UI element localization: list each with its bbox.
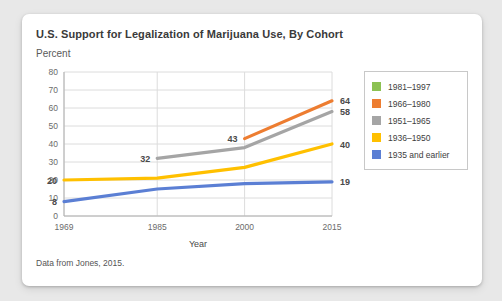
svg-text:64: 64 xyxy=(340,96,350,106)
svg-text:20: 20 xyxy=(47,176,57,186)
legend-swatch-icon xyxy=(372,99,381,108)
legend-item-1951-1965[interactable]: 1951–1965 xyxy=(372,112,461,129)
svg-text:1969: 1969 xyxy=(55,222,74,232)
legend-item-1935-and-earlier[interactable]: 1935 and earlier xyxy=(372,146,461,163)
legend-item-label: 1951–1965 xyxy=(388,116,431,126)
page-title: U.S. Support for Legalization of Marijua… xyxy=(36,28,343,40)
page-background: U.S. Support for Legalization of Marijua… xyxy=(0,0,502,301)
y-axis-unit-label: Percent xyxy=(36,48,70,59)
svg-text:40: 40 xyxy=(49,139,59,149)
svg-text:19: 19 xyxy=(340,177,350,187)
legend-item-label: 1935 and earlier xyxy=(388,150,449,160)
source-note: Data from Jones, 2015. xyxy=(36,258,124,268)
svg-text:2000: 2000 xyxy=(235,222,254,232)
svg-text:30: 30 xyxy=(49,157,59,167)
line-chart: 0102030405060708019691985200020154364325… xyxy=(32,66,372,251)
legend-item-1981-1997[interactable]: 1981–1997 xyxy=(372,78,461,95)
svg-text:2015: 2015 xyxy=(323,222,342,232)
svg-text:32: 32 xyxy=(140,154,150,164)
svg-text:0: 0 xyxy=(53,211,58,221)
legend-item-label: 1936–1950 xyxy=(388,133,431,143)
legend-item-label: 1981–1997 xyxy=(388,82,431,92)
legend-swatch-icon xyxy=(372,133,381,142)
chart-card: U.S. Support for Legalization of Marijua… xyxy=(22,14,482,286)
svg-text:1985: 1985 xyxy=(148,222,167,232)
legend-item-1936-1950[interactable]: 1936–1950 xyxy=(372,129,461,146)
svg-text:43: 43 xyxy=(228,134,238,144)
svg-text:40: 40 xyxy=(340,140,350,150)
svg-text:Year: Year xyxy=(189,239,207,249)
svg-text:80: 80 xyxy=(49,67,59,77)
legend-swatch-icon xyxy=(372,116,381,125)
svg-text:50: 50 xyxy=(49,121,59,131)
svg-text:70: 70 xyxy=(49,85,59,95)
legend-swatch-icon xyxy=(372,150,381,159)
legend-item-1966-1980[interactable]: 1966–1980 xyxy=(372,95,461,112)
svg-text:58: 58 xyxy=(340,107,350,117)
plot-area: 0102030405060708019691985200020154364325… xyxy=(32,66,372,251)
legend-item-label: 1966–1980 xyxy=(388,99,431,109)
legend-swatch-icon xyxy=(372,82,381,91)
svg-text:8: 8 xyxy=(52,197,57,207)
svg-text:60: 60 xyxy=(49,103,59,113)
chart-legend: 1981–1997 1966–1980 1951–1965 1936–1950 … xyxy=(364,71,468,170)
